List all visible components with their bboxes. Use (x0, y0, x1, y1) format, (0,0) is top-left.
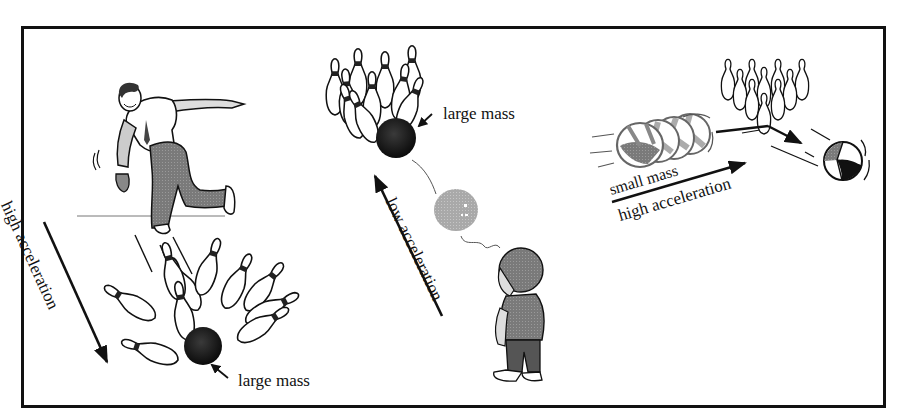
mass-pointer-arrow (212, 365, 228, 378)
panel-bowler (44, 83, 303, 378)
bounce-lines (771, 129, 830, 166)
bowling-ball-large (376, 118, 416, 158)
bowling-pins-cluster (721, 59, 808, 134)
illustration (0, 0, 899, 419)
thought-bubble (434, 189, 478, 231)
label-large-mass-top: large mass (443, 105, 515, 122)
beach-ball (824, 140, 869, 180)
figure-canvas: high acceleration large mass large mass … (0, 0, 899, 419)
mass-pointer-arrow (419, 114, 432, 126)
trajectory-arrow (768, 126, 801, 143)
speed-lines (590, 134, 614, 167)
bowling-ball-large (184, 327, 222, 365)
label-large-mass-bottom: large mass (238, 372, 310, 389)
bowler-figure (93, 83, 244, 234)
beach-ball-blur (617, 114, 713, 167)
panel-child (326, 46, 544, 381)
child-figure (494, 248, 544, 381)
